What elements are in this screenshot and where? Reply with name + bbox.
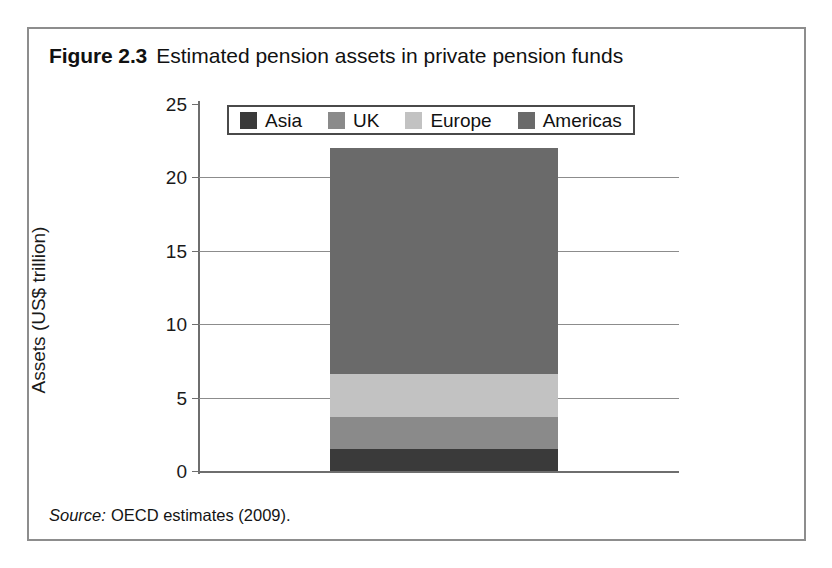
legend-swatch-icon <box>328 112 345 129</box>
y-axis-tick-label: 10 <box>143 315 187 334</box>
gridline <box>199 471 679 473</box>
chart-plot: Assets (US$ trillion) 0510152025 AsiaUKE… <box>29 29 804 539</box>
y-axis-tick-label: 25 <box>143 95 187 114</box>
legend-label: Asia <box>265 111 302 130</box>
plot-area <box>199 104 679 471</box>
legend-label: Europe <box>430 111 491 130</box>
legend-swatch-icon <box>405 112 422 129</box>
y-axis-tick <box>192 471 199 472</box>
y-axis-tick <box>192 324 199 325</box>
figure-frame: Figure 2.3Estimated pension assets in pr… <box>27 27 806 541</box>
legend-swatch-icon <box>518 112 535 129</box>
legend-label: UK <box>353 111 379 130</box>
y-axis-tick-label: 0 <box>143 462 187 481</box>
legend-swatch-icon <box>240 112 257 129</box>
legend-entry-asia: Asia <box>240 111 302 130</box>
legend-entry-americas: Americas <box>518 111 622 130</box>
source-text: OECD estimates (2009). <box>111 506 291 524</box>
source-label: Source: <box>49 506 106 524</box>
bar-segment-europe <box>330 374 558 417</box>
bar-segment-uk <box>330 417 558 449</box>
y-axis-tick <box>192 398 199 399</box>
source-note: Source:OECD estimates (2009). <box>49 505 291 525</box>
stacked-bar <box>330 148 558 471</box>
y-axis-tick <box>192 177 199 178</box>
legend-entry-uk: UK <box>328 111 379 130</box>
y-axis-tick <box>192 251 199 252</box>
legend-entry-europe: Europe <box>405 111 491 130</box>
bar-segment-americas <box>330 148 558 374</box>
chart-legend: AsiaUKEuropeAmericas <box>227 105 635 135</box>
y-axis-tick-label: 15 <box>143 242 187 261</box>
bar-segment-asia <box>330 449 558 471</box>
y-axis-title: Assets (US$ trillion) <box>28 185 50 435</box>
y-axis-tick-label: 5 <box>143 389 187 408</box>
legend-label: Americas <box>543 111 622 130</box>
y-axis-tick <box>192 104 199 105</box>
y-axis-tick-label: 20 <box>143 168 187 187</box>
y-axis-tick-labels: 0510152025 <box>137 29 187 539</box>
